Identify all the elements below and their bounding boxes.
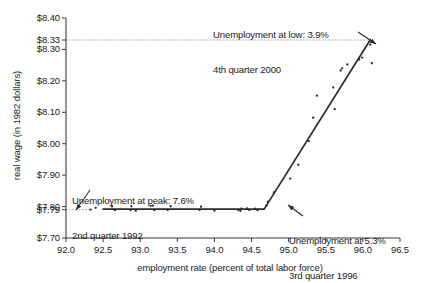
x-axis-tick-label-9: 96.5 — [380, 244, 420, 255]
y-axis-tick-label-9: $7.70 — [8, 232, 60, 243]
low-unemployment-annotation: Unemployment at low: 3.9% 4th quarter 20… — [213, 6, 329, 99]
mid-unemployment-annotation-line2: 3rd quarter 1996 — [289, 270, 386, 282]
y-axis-title-wrapper: real wage (in 1982 dollars) — [11, 36, 22, 216]
data-point-24 — [273, 191, 275, 193]
data-point-32 — [339, 69, 341, 71]
data-point-12 — [200, 206, 202, 208]
data-point-35 — [358, 58, 360, 60]
data-point-15 — [237, 209, 239, 211]
data-point-34 — [346, 63, 348, 65]
data-point-33 — [341, 67, 343, 69]
chart-container: $8.40$8.33$8.30$8.20$8.10$8.00$7.90$7.80… — [0, 0, 426, 283]
data-point-37 — [369, 44, 371, 46]
peak-unemployment-annotation-line1: Unemployment at peak: 7.6% — [72, 195, 194, 207]
data-point-22 — [265, 204, 267, 206]
y-axis-title: real wage (in 1982 dollars) — [11, 36, 22, 216]
data-point-30 — [334, 108, 336, 110]
data-point-18 — [246, 207, 248, 209]
data-point-16 — [239, 210, 241, 212]
data-point-17 — [240, 207, 242, 209]
data-point-20 — [254, 208, 256, 210]
data-point-19 — [248, 209, 250, 211]
low-unemployment-annotation-line1: Unemployment at low: 3.9% — [213, 29, 329, 41]
data-point-21 — [256, 209, 258, 211]
data-point-25 — [289, 177, 291, 179]
data-point-36 — [361, 56, 363, 58]
x-axis-tick-label-4: 94.0 — [194, 244, 234, 255]
data-point-23 — [267, 200, 269, 202]
peak-unemployment-annotation: Unemployment at peak: 7.6% 2nd quarter 1… — [72, 172, 194, 265]
data-point-27 — [308, 140, 310, 142]
mid-unemployment-arrow-arrowhead — [288, 205, 294, 211]
peak-unemployment-annotation-line2: 2nd quarter 1992 — [72, 230, 194, 242]
x-axis-tick-label-5: 94.5 — [232, 244, 272, 255]
data-point-31 — [332, 86, 334, 88]
data-point-14 — [213, 210, 215, 212]
mid-unemployment-annotation-line1: Unemployment at 5.3% — [289, 235, 386, 247]
data-point-38 — [371, 62, 373, 64]
data-point-13 — [198, 209, 200, 211]
data-point-26 — [297, 164, 299, 166]
y-axis-tick-label-0: $8.40 — [8, 12, 60, 23]
mid-unemployment-annotation: Unemployment at 5.3% 3rd quarter 1996 — [289, 212, 386, 283]
low-unemployment-annotation-line2: 4th quarter 2000 — [213, 64, 329, 76]
data-point-28 — [312, 116, 314, 118]
